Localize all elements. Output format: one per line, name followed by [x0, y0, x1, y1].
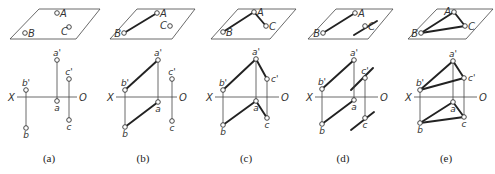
space-point-b: [221, 30, 226, 35]
panel-caption-d: (d): [337, 152, 350, 165]
projection-label-a: a: [450, 104, 456, 114]
space-point-a: [55, 11, 60, 16]
projection-label-c1: c': [271, 74, 278, 84]
space-label-b: B: [114, 28, 121, 39]
projection-label-a: a: [54, 103, 60, 113]
space-label-a: A: [59, 8, 67, 19]
panel-caption-a: (a): [43, 152, 56, 165]
space-segment-ab: [124, 13, 157, 33]
projection-point-a1: [451, 59, 456, 64]
projection-label-c: c: [462, 119, 467, 129]
projection-point-c1: [170, 77, 175, 82]
axis-label-o: O: [479, 92, 487, 103]
projection-label-a: a: [155, 104, 161, 114]
projection-point-c1: [265, 77, 270, 82]
space-label-c: C: [368, 21, 375, 32]
projection-label-a1: a': [252, 47, 260, 57]
axis-label-x: X: [106, 92, 115, 103]
projection-segment-a1-b1: [125, 60, 158, 90]
panel-c: XOABCa'ab'bc'c(c): [205, 7, 296, 165]
projection-label-a1: a': [154, 48, 162, 58]
panel-e: XOABCa'ab'bc'c(e): [404, 6, 493, 165]
projection-point-a1: [55, 58, 60, 63]
space-label-b: B: [226, 27, 233, 38]
projection-label-b1: b': [219, 78, 227, 88]
axis-label-x: X: [205, 92, 214, 103]
projection-label-b: b: [319, 126, 325, 136]
projection-point-b1: [123, 88, 128, 93]
space-label-a: A: [256, 7, 264, 18]
projection-label-c: c: [363, 120, 368, 130]
projection-segment-a1-b1: [223, 59, 256, 90]
space-point-b: [321, 31, 326, 36]
projection-label-a: a: [253, 103, 259, 113]
projection-point-c1: [363, 76, 368, 81]
projection-point-b1: [418, 88, 423, 93]
projection-label-b1: b': [22, 78, 30, 88]
projection-segment-a-b: [125, 102, 158, 127]
projection-label-b1: b': [121, 78, 129, 88]
space-point-a: [353, 11, 358, 16]
projection-segment-a1-c1: [453, 61, 464, 78]
axis-label-o: O: [79, 92, 87, 103]
projection-label-a1: a': [449, 49, 457, 59]
space-label-b: B: [28, 28, 35, 39]
space-point-a: [452, 10, 457, 15]
space-point-b: [23, 31, 28, 36]
projection-label-b: b: [23, 130, 29, 140]
space-label-c: C: [61, 26, 68, 37]
projection-segment-a1-c1: [256, 59, 267, 79]
space-point-b: [419, 31, 424, 36]
space-point-a: [155, 11, 160, 16]
axis-label-x: X: [305, 92, 314, 103]
projection-label-b: b: [122, 129, 128, 139]
panel-b: XOABCa'ab'bc'c(b): [106, 8, 195, 165]
projection-segment-a-b: [322, 100, 354, 124]
diagram-canvas: XOABCa'ab'bc'c(a)XOABCa'ab'bc'c(b)XOABCa…: [0, 0, 495, 174]
projection-point-c1: [462, 76, 467, 81]
space-point-c: [463, 24, 468, 29]
projection-point-a1: [352, 58, 357, 63]
projection-label-c: c: [170, 123, 175, 133]
projection-label-b1: b': [318, 77, 326, 87]
panel-d: XOABCa'ab'bc'c(d): [305, 8, 393, 165]
space-label-b: B: [411, 28, 418, 39]
space-segment-ab: [323, 13, 355, 33]
space-point-c: [264, 24, 269, 29]
projection-label-c: c: [67, 122, 72, 132]
space-label-c: C: [468, 21, 475, 32]
space-label-c: C: [269, 21, 276, 32]
projection-point-a1: [156, 58, 161, 63]
panel-a: XOABCa'ab'bc'c(a): [7, 8, 100, 165]
projection-label-c1: c': [65, 67, 72, 77]
projection-label-c1: c': [468, 73, 475, 83]
space-label-a: A: [357, 8, 365, 19]
projection-point-b1: [221, 88, 226, 93]
projection-point-b1: [320, 87, 325, 92]
space-label-a: A: [159, 8, 167, 19]
space-point-c: [363, 24, 368, 29]
space-point-b: [122, 31, 127, 36]
projection-segment-a1-b1: [322, 60, 354, 89]
axis-label-o: O: [281, 92, 289, 103]
panel-caption-e: (e): [440, 152, 453, 165]
projection-label-a1: a': [350, 48, 358, 58]
projection-label-c1: c': [361, 66, 368, 76]
panel-caption-c: (c): [240, 152, 253, 165]
space-point-c: [168, 24, 173, 29]
projection-label-b: b: [220, 127, 226, 137]
space-label-b: B: [313, 28, 320, 39]
projection-label-c: c: [265, 120, 270, 130]
axis-label-o: O: [179, 92, 187, 103]
axis-label-x: X: [404, 92, 413, 103]
panel-caption-b: (b): [137, 152, 150, 165]
space-label-c: C: [160, 20, 167, 31]
projection-label-c1: c': [168, 67, 175, 77]
projection-label-a: a: [351, 102, 357, 112]
projection-label-b: b: [417, 125, 423, 135]
space-label-a: A: [443, 6, 451, 17]
axis-label-x: X: [7, 92, 16, 103]
projection-point-c1: [67, 77, 72, 82]
projection-figure: XOABCa'ab'bc'c(a)XOABCa'ab'bc'c(b)XOABCa…: [0, 0, 495, 174]
projection-label-a1: a': [53, 48, 61, 58]
